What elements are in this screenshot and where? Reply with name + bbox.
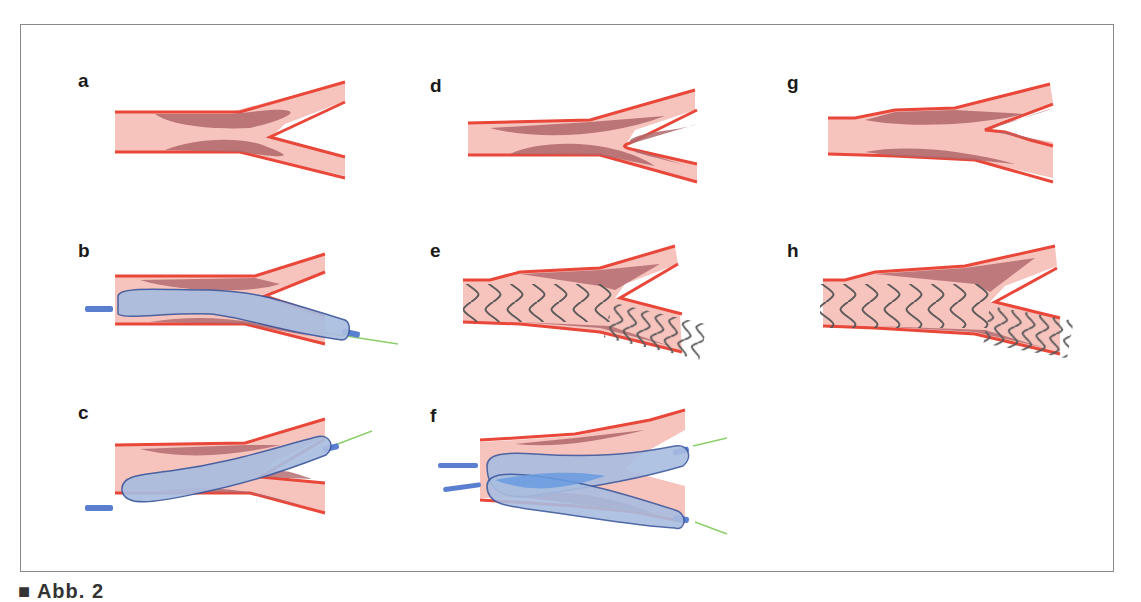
panel-b-illustration xyxy=(80,240,410,360)
panel-label-d: d xyxy=(430,75,442,97)
panel-label-e: e xyxy=(430,240,441,262)
panel-a-illustration xyxy=(110,100,360,190)
panel-f-illustration xyxy=(435,410,755,540)
panel-e-illustration xyxy=(460,242,710,362)
panel-label-a: a xyxy=(78,70,89,92)
panel-h-illustration xyxy=(815,242,1075,362)
panel-label-h: h xyxy=(787,240,799,262)
panel-label-g: g xyxy=(787,72,799,94)
panel-c-illustration xyxy=(80,405,410,535)
panel-d-illustration xyxy=(465,80,715,190)
figure-caption: ■ Abb. 2 xyxy=(18,580,104,602)
panel-g-illustration xyxy=(825,80,1075,190)
